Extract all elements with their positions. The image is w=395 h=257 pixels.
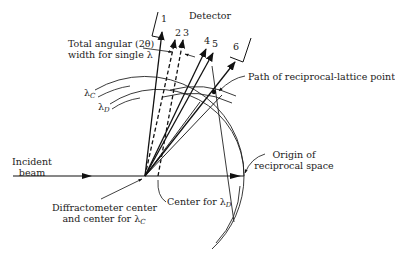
incident-line2: beam: [12, 167, 52, 178]
leader-lines: [98, 76, 265, 202]
diff-center-line2: and center for λC: [52, 213, 156, 228]
diff-center-sub: C: [140, 218, 145, 226]
angular-width-line1: Total angular (2θ): [68, 38, 154, 49]
center-d-text: Center for λ: [167, 196, 226, 207]
ray-label-4: 4: [204, 35, 210, 46]
ray-label-3: 3: [183, 27, 189, 38]
diff-center-line1: Diffractometer center: [52, 202, 156, 213]
origin-line2: reciprocal space: [254, 160, 334, 171]
center-d-label: Center for λD: [167, 196, 231, 211]
center-d-sub: D: [226, 201, 232, 209]
diffractometer-center-label: Diffractometer center and center for λC: [52, 202, 156, 228]
origin-label: Origin of reciprocal space: [254, 149, 334, 171]
lambda-d-label: λD: [98, 101, 110, 116]
ray-label-1: 1: [161, 13, 167, 24]
lambda-c-sub: C: [90, 92, 95, 100]
diffracted-rays: [145, 32, 235, 176]
angular-width-label: Total angular (2θ) width for single λ: [68, 38, 154, 60]
ray-label-5: 5: [212, 38, 218, 49]
angular-width-line2: width for single λ: [68, 49, 154, 60]
path-point-label: Path of reciprocal-lattice point: [248, 71, 395, 82]
lambda-d-sub: D: [104, 106, 110, 114]
detector-label: Detector: [189, 10, 231, 21]
ray-label-2: 2: [175, 27, 181, 38]
diff-center-line2-text: and center for λ: [62, 213, 140, 224]
ray-label-6: 6: [233, 41, 239, 52]
incident-line1: Incident: [12, 156, 52, 167]
incident-beam-label: Incident beam: [12, 156, 52, 178]
origin-line1: Origin of: [254, 149, 334, 160]
lambda-c-label: λC: [84, 87, 95, 102]
